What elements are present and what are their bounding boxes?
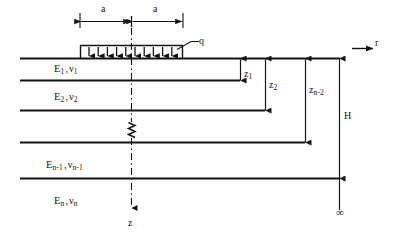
zigzag-break-icon bbox=[129, 123, 136, 138]
depth-subscript-z2: 2 bbox=[273, 83, 277, 92]
depth-subscript-zn2: n-2 bbox=[313, 88, 324, 97]
poisson-subscript-n: n bbox=[74, 199, 78, 208]
total-depth-label-H: H bbox=[344, 111, 351, 121]
material-label-layer-2: E2,ν2 bbox=[54, 92, 78, 104]
infinity-label: ∞ bbox=[336, 207, 344, 218]
depth-subscript-z1: 1 bbox=[248, 72, 252, 81]
dimension-label-a-right: a bbox=[153, 4, 157, 14]
dimension-label-a-left: a bbox=[101, 4, 105, 14]
load-intensity-label: q bbox=[199, 36, 204, 46]
modulus-subscript-n-1: n-1 bbox=[52, 163, 63, 172]
material-label-layer-n: En,νn bbox=[54, 196, 78, 208]
poisson-subscript-n-1: n-1 bbox=[72, 163, 83, 172]
depth-label-z1: z1 bbox=[244, 69, 252, 81]
material-label-layer-1: E1,ν1 bbox=[54, 64, 78, 76]
load-arrow-array bbox=[89, 47, 172, 56]
depth-label-z2: z2 bbox=[269, 80, 277, 92]
poisson-subscript-1: 1 bbox=[74, 67, 78, 76]
width-dimension-group bbox=[80, 13, 183, 28]
layered-elastic-system-figure: a a q r z E1,ν1 E2,ν2 En-1,νn-1 En,νn z1… bbox=[0, 0, 394, 239]
depth-label-zn2: zn-2 bbox=[309, 85, 324, 97]
depth-axis-label: z bbox=[128, 218, 132, 228]
poisson-subscript-2: 2 bbox=[74, 95, 78, 104]
material-label-layer-n-1: En-1,νn-1 bbox=[46, 160, 83, 172]
uniform-load-group bbox=[80, 42, 199, 59]
radial-axis-label: r bbox=[375, 38, 378, 48]
